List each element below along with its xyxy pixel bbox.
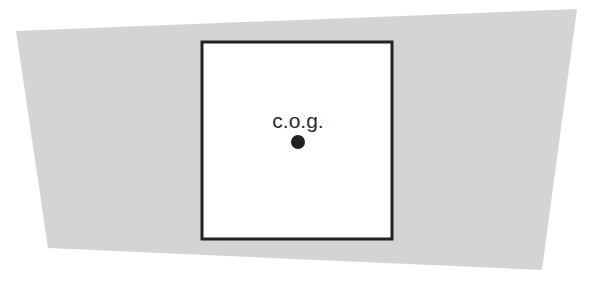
diagram-canvas: c.o.g. — [0, 0, 592, 283]
cog-label: c.o.g. — [272, 109, 323, 132]
center-of-gravity-dot-icon — [291, 135, 305, 149]
